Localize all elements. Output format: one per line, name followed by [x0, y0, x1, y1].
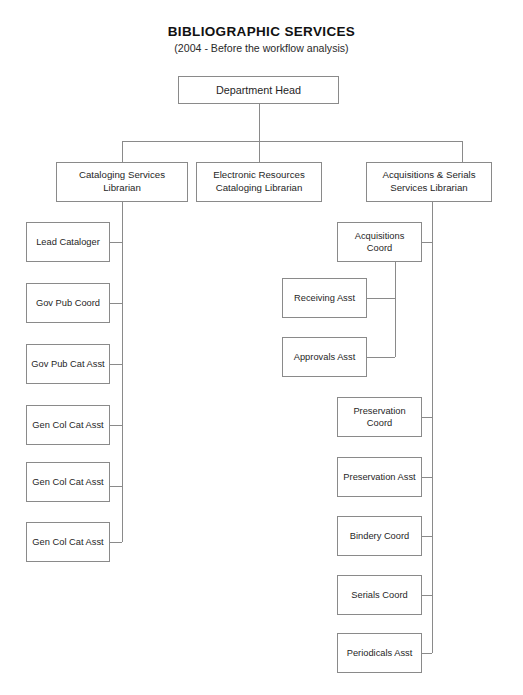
connector-stub-gov-pub-coord [110, 303, 122, 304]
connector-stub-receiving-asst [367, 298, 395, 299]
connector-stub-gov-pub-cat-asst [110, 364, 122, 365]
node-receiving-asst[interactable]: Receiving Asst [282, 278, 367, 318]
connector-stub-gen-col-cat-asst-2 [110, 486, 122, 487]
connector-stub-gen-col-cat-asst-1 [110, 425, 122, 426]
node-approvals-asst[interactable]: Approvals Asst [282, 337, 367, 377]
node-periodicals-asst[interactable]: Periodicals Asst [337, 633, 422, 673]
node-department-head[interactable]: Department Head [178, 76, 339, 104]
connector-stub-preservation-coord [422, 417, 432, 418]
connector-root-stem [259, 104, 260, 141]
connector-stub-periodicals-asst [422, 653, 432, 654]
node-gov-pub-cat-asst[interactable]: Gov Pub Cat Asst [26, 344, 110, 384]
node-preservation-coord[interactable]: Preservation Coord [337, 397, 422, 437]
node-cataloging-services-librarian[interactable]: Cataloging Services Librarian [56, 162, 188, 202]
connector-tier2-bus [122, 141, 462, 142]
node-bindery-coord[interactable]: Bindery Coord [337, 516, 422, 556]
node-gen-col-cat-asst-1[interactable]: Gen Col Cat Asst [26, 405, 110, 445]
connector-drop-cataloging [122, 141, 123, 162]
node-gen-col-cat-asst-2[interactable]: Gen Col Cat Asst [26, 462, 110, 502]
connector-stub-approvals-asst [367, 357, 395, 358]
node-lead-cataloger[interactable]: Lead Cataloger [26, 222, 110, 262]
connector-acquisitions-spine [432, 202, 433, 653]
node-preservation-asst[interactable]: Preservation Asst [337, 457, 422, 497]
connector-stub-serials-coord [422, 595, 432, 596]
node-gov-pub-coord[interactable]: Gov Pub Coord [26, 283, 110, 323]
org-chart-page: BIBLIOGRAPHIC SERVICES (2004 - Before th… [0, 0, 523, 695]
node-electronic-resources-cataloging-librarian[interactable]: Electronic Resources Cataloging Libraria… [196, 162, 322, 202]
connector-acquisitions-coord-spine [395, 262, 396, 357]
chart-subtitle: (2004 - Before the workflow analysis) [156, 42, 368, 55]
node-gen-col-cat-asst-3[interactable]: Gen Col Cat Asst [26, 522, 110, 562]
connector-drop-electronic [259, 141, 260, 162]
node-acquisitions-coord[interactable]: Acquisitions Coord [337, 222, 422, 262]
connector-stub-acquisitions-coord [422, 242, 432, 243]
chart-title: BIBLIOGRAPHIC SERVICES [0, 24, 523, 40]
node-serials-coord[interactable]: Serials Coord [337, 575, 422, 615]
node-acquisitions-serials-services-librarian[interactable]: Acquisitions & Serials Services Libraria… [366, 162, 492, 202]
chart-header: BIBLIOGRAPHIC SERVICES (2004 - Before th… [0, 24, 523, 55]
connector-stub-gen-col-cat-asst-3 [110, 542, 122, 543]
connector-cataloging-spine [122, 202, 123, 542]
connector-stub-bindery-coord [422, 536, 432, 537]
connector-stub-preservation-asst [422, 477, 432, 478]
connector-stub-lead-cataloger [110, 242, 122, 243]
connector-drop-acquisitions [462, 141, 463, 162]
